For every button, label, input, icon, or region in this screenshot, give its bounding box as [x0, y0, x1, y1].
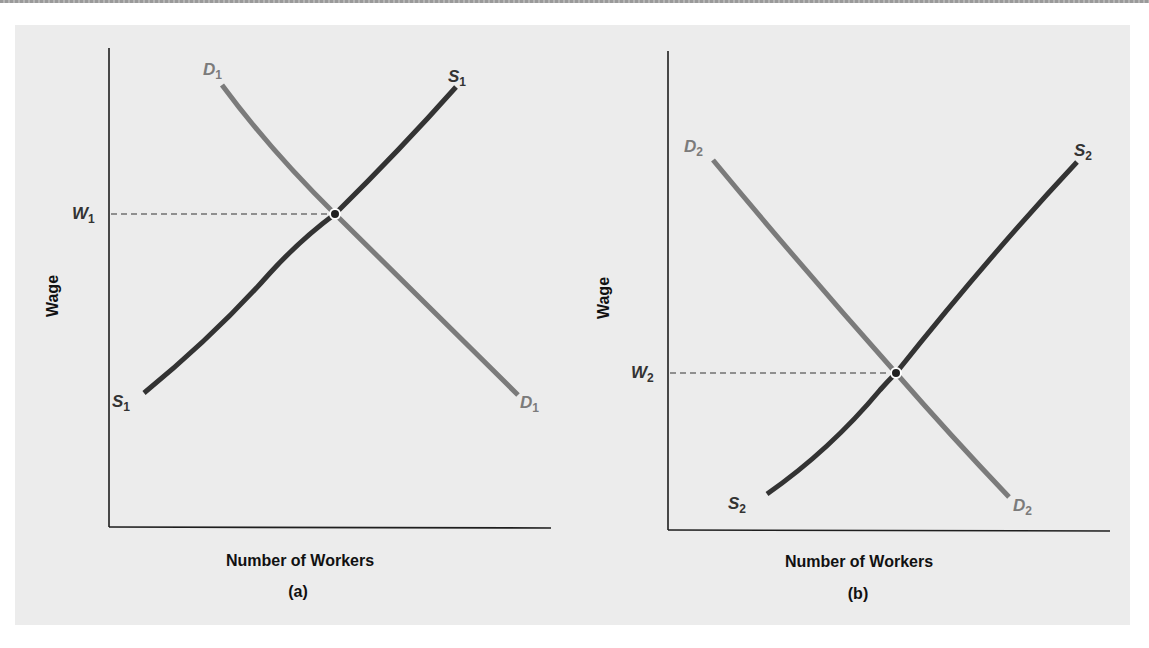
- supply-curve-s1: [144, 87, 456, 393]
- label-s2-bottom: S2: [728, 494, 746, 516]
- x-axis-title-b: Number of Workers: [785, 553, 933, 570]
- y-axis-title-b: Wage: [595, 277, 612, 319]
- equilibrium-point-b: [891, 368, 901, 378]
- demand-curve-d2: [713, 160, 1009, 497]
- label-w1: W1: [72, 204, 95, 226]
- label-s2-top: S2: [1074, 141, 1092, 163]
- label-s1-top: S1: [448, 67, 466, 89]
- label-d1-bottom: D1: [520, 393, 539, 415]
- label-d1: D1: [203, 60, 222, 82]
- label-d2-bottom: D2: [1013, 496, 1032, 518]
- x-axis-b: [668, 530, 1110, 531]
- labor-market-figure: D1 S1 S1 D1 W1 Wage Number of Workers (a…: [0, 0, 1149, 648]
- x-axis-title-a: Number of Workers: [226, 552, 374, 569]
- panel-label-b: (b): [848, 585, 868, 602]
- y-axis-title-a: Wage: [44, 275, 61, 317]
- label-d2: D2: [684, 137, 703, 159]
- equilibrium-point-a: [330, 209, 340, 219]
- label-s1-bottom: S1: [112, 392, 130, 414]
- panel-b: D2 S2 S2 D2 W2 Wage Number of Workers (b…: [595, 51, 1110, 602]
- demand-curve-d1: [222, 85, 518, 395]
- panel-a: D1 S1 S1 D1 W1 Wage Number of Workers (a…: [44, 48, 551, 600]
- label-w2: W2: [631, 363, 654, 385]
- supply-curve-s2: [767, 162, 1077, 494]
- x-axis-a: [109, 527, 551, 528]
- panel-label-a: (a): [288, 583, 308, 600]
